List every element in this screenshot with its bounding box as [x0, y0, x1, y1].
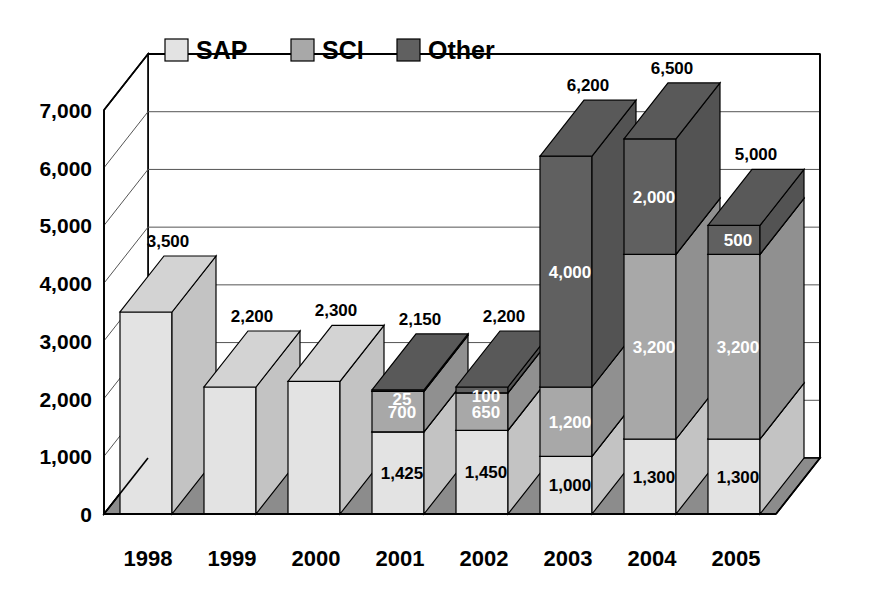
x-axis-tick-2002: 2002 [460, 546, 509, 571]
legend-swatch-sci [291, 39, 314, 61]
segment-value-2003-Other: 4,000 [549, 263, 592, 282]
y-axis-tick-0: 0 [80, 503, 92, 526]
segment-value-2005-SAP: 1,300 [717, 468, 760, 487]
stacked-column-chart: 01,0002,0003,0004,0005,0006,0007,0003,50… [0, 0, 869, 604]
x-axis-tick-2003: 2003 [544, 546, 593, 571]
bar-group-2004: 1,3003,2002,000 [624, 83, 720, 514]
legend-label-other: Other [428, 36, 495, 64]
segment-value-2001-Other: 25 [393, 390, 412, 409]
bar-segment-2000-SAP [288, 381, 340, 514]
x-axis-tick-2005: 2005 [712, 546, 761, 571]
legend-swatch-other [397, 39, 420, 61]
y-axis-tick-6000: 6,000 [39, 157, 92, 180]
legend-swatch-sap [165, 39, 188, 61]
segment-value-2005-Other: 500 [724, 231, 752, 250]
y-axis-tick-1000: 1,000 [39, 445, 92, 468]
x-axis-tick-1998: 1998 [124, 546, 173, 571]
bar-total-2005: 5,000 [735, 145, 778, 164]
y-axis-tick-3000: 3,000 [39, 330, 92, 353]
segment-value-2003-SCI: 1,200 [549, 413, 592, 432]
bar-total-2000: 2,300 [315, 301, 358, 320]
bar-segment-1999-SAP [204, 387, 256, 514]
segment-value-2004-SAP: 1,300 [633, 468, 676, 487]
bar-total-2003: 6,200 [567, 76, 610, 95]
bar-total-1999: 2,200 [231, 307, 274, 326]
segment-value-2002-Other: 100 [472, 387, 500, 406]
segment-value-2001-SAP: 1,425 [381, 464, 424, 483]
bar-total-1998: 3,500 [147, 232, 190, 251]
y-axis-tick-7000: 7,000 [39, 99, 92, 122]
x-axis-tick-2001: 2001 [376, 546, 425, 571]
chart-canvas: 01,0002,0003,0004,0005,0006,0007,0003,50… [0, 0, 869, 604]
legend-label-sci: SCI [322, 36, 364, 64]
bar-group-2005: 1,3003,200500 [708, 169, 804, 514]
y-axis-tick-5000: 5,000 [39, 214, 92, 237]
y-axis-tick-4000: 4,000 [39, 272, 92, 295]
bar-total-2004: 6,500 [651, 59, 694, 78]
segment-value-2005-SCI: 3,200 [717, 338, 760, 357]
x-axis-tick-1999: 1999 [208, 546, 257, 571]
x-axis-tick-2000: 2000 [292, 546, 341, 571]
y-axis-tick-2000: 2,000 [39, 388, 92, 411]
segment-value-2002-SAP: 1,450 [465, 463, 508, 482]
bar-total-2002: 2,200 [483, 307, 526, 326]
segment-value-2004-SCI: 3,200 [633, 338, 676, 357]
x-axis-tick-2004: 2004 [628, 546, 678, 571]
legend-label-sap: SAP [196, 36, 247, 64]
bar-group-2003: 1,0001,2004,000 [540, 100, 636, 514]
segment-value-2003-SAP: 1,000 [549, 476, 592, 495]
segment-value-2004-Other: 2,000 [633, 188, 676, 207]
bar-total-2001: 2,150 [399, 310, 442, 329]
